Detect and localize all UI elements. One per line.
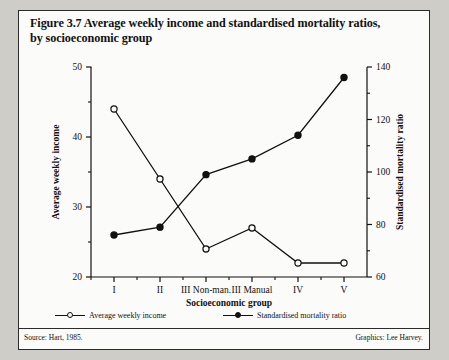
x-tick-label: III Non-man.	[181, 285, 231, 295]
data-point-smr	[111, 232, 117, 238]
data-point-income	[341, 260, 347, 266]
data-point-income	[203, 246, 209, 252]
line-chart: 203040506080100120140IIIIII Non-man.III …	[19, 49, 431, 311]
figure-panel: Figure 3.7 Average weekly income and sta…	[18, 10, 430, 350]
legend-label-income: Average weekly income	[89, 311, 166, 320]
data-point-smr	[249, 156, 255, 162]
data-point-smr	[203, 172, 209, 178]
source-note: Source: Hart, 1985.	[24, 333, 83, 342]
data-point-income	[249, 225, 255, 231]
y-tick-label-left: 20	[73, 272, 83, 282]
y-tick-label-right: 80	[376, 220, 386, 230]
y-tick-label-left: 30	[73, 202, 83, 212]
chart-plot-area: 203040506080100120140IIIIII Non-man.III …	[19, 49, 431, 311]
data-point-income	[111, 106, 117, 112]
data-point-smr	[295, 132, 301, 138]
legend-marker-income	[67, 312, 73, 318]
chart-legend: Average weekly income Standardised morta…	[19, 309, 431, 327]
chart-axes	[86, 67, 372, 282]
data-point-smr	[341, 74, 347, 80]
data-point-income	[295, 260, 301, 266]
figure-title-line2: by socioeconomic group	[30, 31, 152, 45]
graphics-credit: Graphics: Lee Harvey.	[355, 333, 423, 342]
data-point-income	[157, 176, 163, 182]
figure-title-line1: Figure 3.7 Average weekly income and sta…	[30, 16, 380, 30]
y-tick-label-left: 50	[73, 62, 83, 72]
figure-title: Figure 3.7 Average weekly income and sta…	[30, 16, 420, 46]
data-point-smr	[157, 224, 163, 230]
legend-marker-smr	[235, 312, 241, 318]
y-axis-title-right: Standardised mortality ratio	[395, 114, 405, 230]
legend-label-smr: Standardised mortality ratio	[257, 311, 346, 320]
x-tick-label: V	[341, 285, 348, 295]
x-tick-label: II	[157, 285, 163, 295]
y-tick-label-right: 140	[376, 62, 391, 72]
y-tick-label-right: 100	[376, 167, 391, 177]
x-tick-label: I	[112, 285, 115, 295]
x-tick-label: III Manual	[232, 285, 273, 295]
figure-footer: Source: Hart, 1985. Graphics: Lee Harvey…	[19, 328, 429, 349]
y-axis-title-left: Average weekly income	[51, 125, 61, 220]
y-tick-label-right: 120	[376, 115, 391, 125]
y-tick-label-right: 60	[376, 272, 386, 282]
chart-series	[111, 74, 347, 266]
x-tick-label: IV	[293, 285, 303, 295]
x-axis-title: Socioeconomic group	[186, 298, 272, 308]
series-line-smr	[114, 78, 344, 236]
y-tick-label-left: 40	[73, 132, 83, 142]
chart-labels: 203040506080100120140IIIIII Non-man.III …	[51, 62, 405, 308]
series-line-income	[114, 109, 344, 263]
